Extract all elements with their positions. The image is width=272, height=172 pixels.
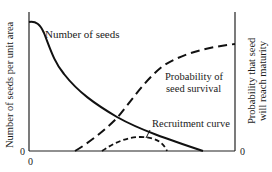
seed-survival-label-line2: seed survival	[166, 83, 221, 94]
seed-survival-label-line1: Probability of	[165, 71, 224, 82]
right-axis-title-line2: will reach maturity	[257, 40, 268, 121]
recruitment-curve-label: Recruitment curve	[152, 118, 230, 129]
seed-recruitment-diagram: Number of seeds Probability of seed surv…	[0, 0, 272, 172]
left-axis-title: Number of seeds per unit area	[4, 21, 15, 148]
recruitment-curve	[102, 137, 167, 151]
number-of-seeds-label: Number of seeds	[45, 28, 120, 40]
left-origin-label: 0	[20, 146, 25, 157]
x-origin-label: 0	[28, 156, 33, 167]
right-origin-label: 0	[240, 146, 245, 157]
right-axis-title-line1: Probability that seed	[246, 37, 257, 124]
